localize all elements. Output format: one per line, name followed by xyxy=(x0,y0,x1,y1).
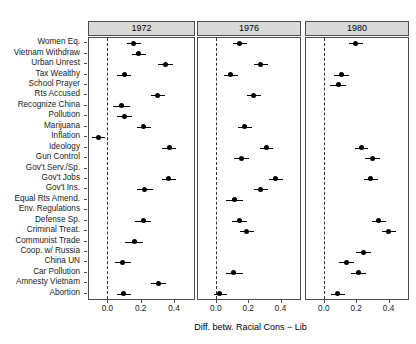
estimate-point xyxy=(344,260,349,265)
x-axis-tick xyxy=(248,300,249,303)
y-axis-label: Coop. w/ Russia xyxy=(20,246,80,256)
y-axis-tick xyxy=(84,261,87,262)
estimate-point xyxy=(370,156,375,161)
estimate-point xyxy=(237,41,242,46)
estimate-point xyxy=(96,135,101,140)
y-axis-tick xyxy=(84,272,87,273)
estimate-point xyxy=(120,260,125,265)
plot-area xyxy=(88,37,195,300)
dot-whisker-chart: Women Eq.Vietnam WithdrawUrban UnrestTax… xyxy=(0,0,416,344)
zero-reference-line xyxy=(216,38,217,299)
x-axis-tick xyxy=(356,300,357,303)
x-axis-tick xyxy=(141,300,142,303)
y-axis-label: Gov't Serv./Sp. xyxy=(26,163,80,173)
y-axis-tick xyxy=(84,42,87,43)
estimate-point xyxy=(119,103,124,108)
estimate-point xyxy=(142,187,147,192)
estimate-point xyxy=(335,291,340,296)
x-axis-tick-label: 0.2 xyxy=(129,304,153,314)
x-axis-tick xyxy=(389,300,390,303)
y-axis-tick xyxy=(84,188,87,189)
y-axis-tick xyxy=(84,94,87,95)
x-axis-tick xyxy=(324,300,325,303)
y-axis-label: Gun Control xyxy=(36,152,80,162)
estimate-point xyxy=(353,41,358,46)
estimate-point xyxy=(244,229,249,234)
x-axis-tick-label: 0.0 xyxy=(312,304,336,314)
estimate-point xyxy=(131,41,136,46)
y-axis-tick xyxy=(84,293,87,294)
x-axis-1972: 0.00.20.4 xyxy=(88,300,195,316)
x-axis-1980: 0.00.20.4 xyxy=(305,300,409,316)
estimate-point xyxy=(231,270,236,275)
estimate-point xyxy=(359,145,364,150)
x-axis-tick xyxy=(216,300,217,303)
estimate-point xyxy=(121,291,126,296)
estimate-point xyxy=(242,124,247,129)
y-axis-label: Recognize China xyxy=(18,100,80,110)
x-axis-tick xyxy=(107,300,108,303)
estimate-point xyxy=(167,145,172,150)
y-axis-tick xyxy=(84,199,87,200)
y-axis-label: Communist Trade xyxy=(15,236,80,246)
estimate-point xyxy=(336,82,341,87)
panel-strip-label: 1980 xyxy=(305,21,409,36)
y-axis-label: Defense Sp. xyxy=(35,215,80,225)
estimate-point xyxy=(122,72,127,77)
y-axis-label: Amnesty Vietnam xyxy=(16,277,80,287)
estimate-point xyxy=(361,250,366,255)
y-axis-tick xyxy=(84,147,87,148)
y-axis-label: Criminal Treat. xyxy=(27,225,80,235)
estimate-point xyxy=(239,156,244,161)
x-axis-tick-label: 0.2 xyxy=(236,304,260,314)
y-axis-tick xyxy=(84,115,87,116)
y-axis-tick xyxy=(84,84,87,85)
zero-reference-line xyxy=(324,38,325,299)
y-axis-label: Vietnam Withdraw xyxy=(14,48,80,58)
estimate-point xyxy=(258,62,263,67)
plot-area xyxy=(305,37,409,300)
x-axis-tick-label: 0.0 xyxy=(204,304,228,314)
y-axis-label: Urban Unrest xyxy=(31,58,80,68)
estimate-point xyxy=(155,93,160,98)
x-axis-title: Diff. betw. Racial Cons − Lib xyxy=(85,322,416,332)
y-axis-label: Women Eq. xyxy=(37,37,80,47)
y-axis-tick xyxy=(84,209,87,210)
panel-strip-label: 1976 xyxy=(197,21,301,36)
y-axis-tick xyxy=(84,136,87,137)
y-axis-label: Rts Accused xyxy=(34,89,80,99)
estimate-point xyxy=(339,72,344,77)
estimate-point xyxy=(166,176,171,181)
y-axis-label-column: Women Eq.Vietnam WithdrawUrban UnrestTax… xyxy=(0,42,84,300)
x-axis-tick-label: 0.4 xyxy=(377,304,401,314)
y-axis-tick xyxy=(84,63,87,64)
y-axis-tick xyxy=(84,157,87,158)
estimate-point xyxy=(232,197,237,202)
y-axis-tick xyxy=(84,74,87,75)
zero-reference-line xyxy=(107,38,108,299)
x-axis-tick-label: 0.0 xyxy=(95,304,119,314)
facet-panel-1980: 1980 xyxy=(305,21,409,300)
y-axis-label: Gov't Ins. xyxy=(46,183,80,193)
y-axis-tick xyxy=(84,126,87,127)
y-axis-tick xyxy=(84,282,87,283)
plot-area xyxy=(197,37,301,300)
estimate-point xyxy=(228,72,233,77)
y-axis-tick xyxy=(84,168,87,169)
estimate-point xyxy=(141,218,146,223)
estimate-point xyxy=(132,239,137,244)
estimate-point xyxy=(368,176,373,181)
panel-strip-label: 1972 xyxy=(88,21,195,36)
estimate-point xyxy=(122,114,127,119)
y-axis-tick xyxy=(84,105,87,106)
y-axis-tick xyxy=(84,230,87,231)
estimate-point xyxy=(264,145,269,150)
estimate-point xyxy=(251,93,256,98)
estimate-point xyxy=(356,270,361,275)
y-axis-tick xyxy=(84,53,87,54)
y-axis-label: Gov't Jobs xyxy=(42,173,80,183)
estimate-point xyxy=(258,187,263,192)
estimate-point xyxy=(376,218,381,223)
x-axis-tick xyxy=(281,300,282,303)
y-axis-label: China UN xyxy=(45,256,81,266)
